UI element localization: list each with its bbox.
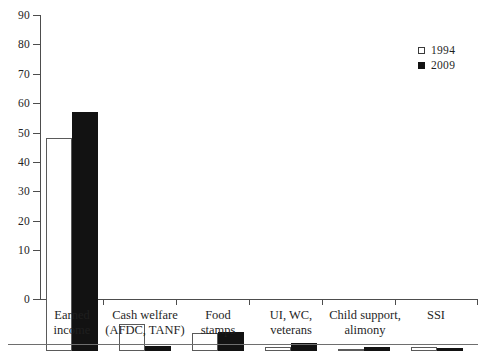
x-tick-sep-2 [176,299,177,305]
y-tick-label-80: 80 [4,39,30,51]
y-tick-mark-0 [33,299,40,300]
x-tick-sep-3 [249,299,250,305]
category-label-cash-welfare: Cash welfare (AFDC, TANF) [98,308,192,337]
y-tick-mark-70 [33,74,40,75]
y-tick-mark-50 [33,133,40,134]
legend-item-2009[interactable]: 2009 [418,59,455,72]
category-label-line2: alimony [318,323,412,338]
y-tick-mark-30 [33,191,40,192]
y-tick-label-0: 0 [4,294,30,306]
legend-label-1994: 1994 [431,44,455,57]
category-label-ui-wc-veterans: UI, WC, veterans [254,308,328,337]
y-tick-mark-20 [33,221,40,222]
x-tick-sep-4 [322,299,323,305]
y-tick-mark-10 [33,250,40,251]
category-label-food-stamps: Food stamps [182,308,254,337]
x-tick-sep-1 [103,299,104,305]
category-label-child-support: Child support, alimony [318,308,412,337]
figure-bottom-rule [8,344,478,345]
category-label-ssi: SSI [404,308,468,323]
bar-1994-ssi[interactable] [411,347,437,351]
y-tick-label-40: 40 [4,157,30,169]
y-tick-mark-90 [33,15,40,16]
category-label-line1: Child support, [318,308,412,323]
y-tick-mark-80 [33,44,40,45]
bar-1994-ui-wc-veterans[interactable] [265,347,291,351]
category-label-line1: Cash welfare [98,308,192,323]
legend: 1994 2009 [418,44,455,74]
y-tick-label-60: 60 [4,98,30,110]
x-tick-sep-6 [477,299,478,305]
y-tick-label-90: 90 [4,10,30,22]
category-label-line2: (AFDC, TANF) [98,323,192,338]
bar-2009-child-support[interactable] [364,347,390,351]
category-label-line2: stamps [182,323,254,338]
y-tick-label-30: 30 [4,186,30,198]
x-tick-sep-5 [395,299,396,305]
bar-2009-cash-welfare[interactable] [145,346,171,351]
y-tick-mark-40 [33,162,40,163]
legend-item-1994[interactable]: 1994 [418,44,455,57]
hollow-square-icon [418,47,425,54]
y-tick-mark-60 [33,103,40,104]
category-label-line2: veterans [254,323,328,338]
y-tick-label-20: 20 [4,216,30,228]
category-label-line1: Food [182,308,254,323]
legend-label-2009: 2009 [431,59,455,72]
y-tick-label-10: 10 [4,245,30,257]
y-tick-label-70: 70 [4,69,30,81]
filled-square-icon [418,62,425,69]
category-label-line1: SSI [404,308,468,323]
bar-chart-figure: 90 80 70 60 50 40 30 20 10 0 [0,0,487,351]
category-label-line1: UI, WC, [254,308,328,323]
y-tick-label-50: 50 [4,128,30,140]
